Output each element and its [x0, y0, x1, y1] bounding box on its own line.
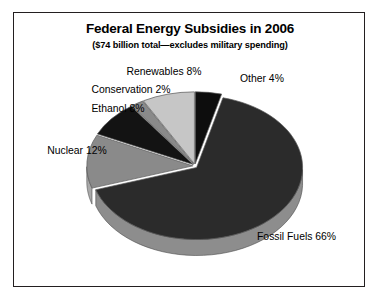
- slice-label-fossil-fuels: Fossil Fuels 66%: [257, 231, 336, 242]
- slice-label-conservation: Conservation 2%: [91, 84, 170, 95]
- slice-label-ethanol: Ethanol 8%: [91, 103, 144, 114]
- pie-chart: Renewables 8% Other 4% Conservation 2% E…: [14, 13, 366, 288]
- slice-label-other: Other 4%: [240, 73, 284, 84]
- chart-frame: Federal Energy Subsidies in 2006 ($74 bi…: [13, 12, 365, 287]
- slice-label-renewables: Renewables 8%: [126, 66, 201, 77]
- slice-label-nuclear: Nuclear 12%: [47, 145, 107, 156]
